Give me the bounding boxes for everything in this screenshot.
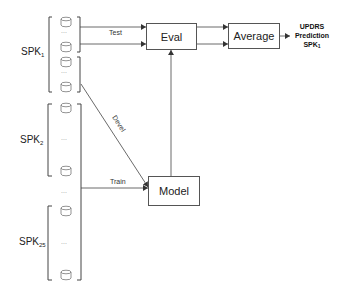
speaker-label-spk25: SPK25	[19, 236, 46, 248]
devel-arrow	[81, 84, 148, 187]
eval-label: Eval	[161, 31, 182, 43]
ellipsis: ...	[61, 134, 67, 141]
edge-label-train: Train	[110, 178, 126, 185]
average-label: Average	[234, 30, 275, 42]
database-icon	[61, 17, 71, 27]
average-node: Average	[228, 23, 280, 49]
eval-node: Eval	[146, 23, 197, 50]
train-bracket	[77, 104, 81, 280]
spk2-group	[48, 103, 71, 176]
speaker-label-spk1: SPK1	[21, 46, 44, 58]
output-label: UPDRS Prediction SPK1	[289, 22, 335, 51]
database-icon	[61, 166, 71, 176]
database-icon	[61, 82, 71, 92]
database-icon	[61, 206, 71, 216]
spk25-group	[48, 206, 71, 280]
ellipsis: ...	[61, 238, 67, 245]
edge-label-test: Test	[109, 29, 122, 36]
speaker-label-spk2: SPK2	[20, 134, 43, 146]
model-node: Model	[148, 176, 200, 206]
ellipsis: ...	[61, 67, 67, 74]
database-icon	[61, 57, 71, 67]
ellipsis: ...	[61, 27, 67, 34]
database-icon	[61, 270, 71, 280]
database-icon	[61, 103, 71, 113]
database-icon	[61, 42, 71, 52]
model-label: Model	[159, 185, 189, 197]
ellipsis: ...	[61, 187, 67, 194]
